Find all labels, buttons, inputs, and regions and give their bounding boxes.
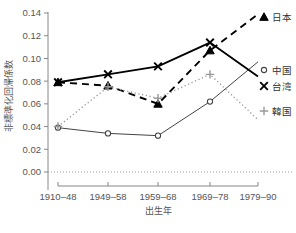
data-series-layer [54, 14, 258, 138]
series-韓国 [54, 70, 258, 131]
data-point-marker [206, 70, 214, 78]
series-日本 [54, 14, 258, 107]
legend-marker-plus-icon [260, 107, 268, 115]
y-axis-title: 非標準化回帰係数 [3, 60, 14, 132]
legend-marker-triangle-icon [260, 13, 268, 21]
y-tick-label: 0.08 [23, 76, 42, 87]
legend-marker-circle-icon [261, 67, 266, 72]
data-point-marker [206, 39, 214, 47]
data-point-marker [155, 133, 160, 138]
legend-label: 韓国 [272, 106, 292, 117]
x-axis-title: 出生年 [145, 205, 172, 216]
legend-item-中国[interactable]: 中国 [261, 65, 292, 76]
regression-coefficient-line-chart: 0.000.020.040.060.080.100.120.14 1910–48… [0, 0, 296, 233]
legend-marker-cross-icon [260, 82, 268, 90]
chart-legend: 日本中国台湾韓国 [260, 12, 292, 117]
x-tick-label: 1959–68 [140, 191, 177, 202]
series-台湾 [54, 39, 258, 86]
y-axis: 0.000.020.040.060.080.100.120.14 [23, 7, 49, 190]
series-中国 [55, 62, 258, 138]
data-point-marker [105, 131, 110, 136]
y-tick-label: 0.10 [23, 53, 42, 64]
chart-container: 0.000.020.040.060.080.100.120.14 1910–48… [0, 0, 296, 233]
y-tick-label: 0.06 [23, 98, 42, 109]
x-axis: 1910–481949–581959–681969–781979–90 [40, 182, 277, 202]
y-tick-label: 0.14 [23, 7, 42, 18]
y-tick-label: 0.04 [23, 121, 42, 132]
data-point-marker [104, 83, 112, 91]
legend-item-台湾[interactable]: 台湾 [260, 81, 292, 92]
y-tick-label: 0.02 [23, 144, 42, 155]
series-line [58, 43, 258, 83]
legend-item-韓国[interactable]: 韓国 [260, 106, 292, 117]
series-line [58, 14, 258, 104]
x-tick-label: 1910–48 [40, 191, 77, 202]
legend-label: 中国 [272, 65, 292, 76]
legend-label: 日本 [272, 12, 292, 23]
x-tick-label: 1979–90 [240, 191, 277, 202]
y-tick-label: 0.12 [23, 30, 42, 41]
x-tick-label: 1949–58 [90, 191, 127, 202]
x-tick-label: 1969–78 [192, 191, 229, 202]
data-point-marker [154, 94, 162, 102]
y-tick-label: 0.00 [23, 166, 42, 177]
legend-item-日本[interactable]: 日本 [260, 12, 292, 23]
data-point-marker [207, 99, 212, 104]
legend-label: 台湾 [272, 81, 292, 92]
